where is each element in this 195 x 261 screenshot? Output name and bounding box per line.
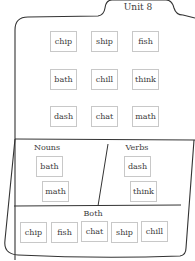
nouns-label: Nouns [30, 143, 64, 152]
both-card[interactable]: ship [111, 222, 138, 243]
word-card[interactable]: fish [132, 31, 159, 52]
unit-title: Unit 8 [118, 2, 158, 12]
both-card[interactable]: fish [51, 222, 78, 243]
word-card[interactable]: think [132, 69, 159, 90]
both-label: Both [76, 209, 110, 218]
noun-card[interactable]: bath [36, 156, 63, 177]
word-card[interactable]: dash [50, 106, 77, 127]
word-card[interactable]: math [132, 106, 159, 127]
both-card[interactable]: chill [141, 221, 168, 242]
verb-card[interactable]: dash [124, 156, 151, 177]
verbs-label: Verbs [120, 143, 154, 152]
both-card[interactable]: chip [20, 222, 47, 243]
word-card[interactable]: bath [50, 69, 77, 90]
word-card[interactable]: chat [91, 106, 118, 127]
both-card[interactable]: chat [81, 221, 108, 242]
verb-card[interactable]: think [130, 181, 157, 202]
word-card[interactable]: chip [50, 31, 77, 52]
noun-card[interactable]: math [42, 181, 69, 202]
word-card[interactable]: ship [91, 31, 118, 52]
word-card[interactable]: chill [91, 69, 118, 90]
